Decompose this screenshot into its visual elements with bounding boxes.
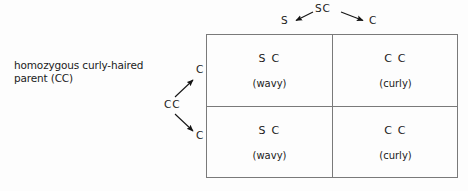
punnett-cell-top-right: C C (curly): [333, 35, 458, 106]
gamete-top-left: S: [281, 14, 288, 26]
gamete-top-right: C: [369, 14, 377, 26]
gamete-source-left: CC: [164, 98, 180, 110]
parent-label-left: homozygous curly-haired parent (CC): [14, 59, 164, 84]
cell-genotype: C C: [384, 52, 406, 65]
gamete-left-upper: C: [196, 63, 204, 75]
cell-genotype: S C: [259, 124, 281, 137]
punnett-cell-top-left: S C (wavy): [207, 35, 332, 106]
punnett-square-diagram: homozygous curly-haired parent (CC) SC S…: [0, 0, 468, 191]
punnett-cell-bottom-left: S C (wavy): [207, 107, 332, 178]
cell-phenotype: (curly): [379, 78, 411, 89]
gamete-left-lower: C: [196, 129, 204, 141]
punnett-grid: S C (wavy) C C (curly) S C (wavy) C C (c…: [206, 34, 458, 178]
cell-phenotype: (wavy): [253, 150, 287, 161]
arrow-left-lower: [175, 114, 193, 131]
cell-genotype: S C: [259, 52, 281, 65]
arrow-left-upper: [175, 80, 193, 97]
arrow-top-right: [341, 12, 363, 21]
cell-genotype: C C: [384, 124, 406, 137]
cell-phenotype: (curly): [379, 150, 411, 161]
gamete-source-top: SC: [315, 2, 331, 14]
punnett-cell-bottom-right: C C (curly): [333, 107, 458, 178]
cell-phenotype: (wavy): [253, 78, 287, 89]
arrow-top-left: [296, 12, 313, 21]
